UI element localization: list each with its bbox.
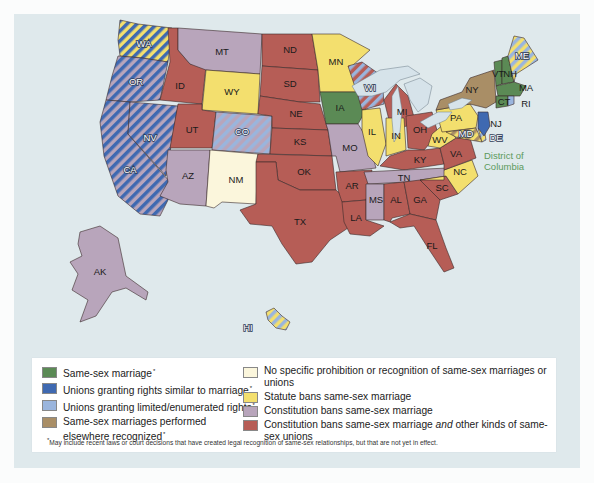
state-label-wa: WA <box>137 38 153 49</box>
state-fl <box>390 214 454 272</box>
state-label-oh: OH <box>413 124 427 135</box>
swatch-constitution-ban-plus <box>243 420 258 431</box>
swatch-unions-limited <box>42 400 57 411</box>
legend-item-unions-similar: Unions granting rights similar to marria… <box>42 382 255 397</box>
state-label-nc: NC <box>453 166 467 177</box>
map-panel: WAORCANVIDMTWYUTCOAZNMNDSDNEKSOKTXMNIAMO… <box>14 14 580 468</box>
state-label-mt: MT <box>215 46 229 57</box>
swatch-unions-similar <box>42 383 57 394</box>
state-label-tn: TN <box>398 172 411 183</box>
state-label-de: DE <box>489 132 502 143</box>
state-label-nm: NM <box>229 174 244 185</box>
state-label-co: CO <box>235 126 249 137</box>
state-label-fl: FL <box>426 240 437 251</box>
state-label-ks: KS <box>294 136 307 147</box>
legend-label: No specific prohibition or recognition o… <box>264 365 556 389</box>
state-label-mi: MI <box>397 106 408 117</box>
state-label-il: IL <box>368 126 376 137</box>
legend-label: Statute bans same-sex marriage <box>264 391 411 403</box>
state-label-nd: ND <box>283 44 297 55</box>
state-label-ia: IA <box>336 102 346 113</box>
state-label-ok: OK <box>297 166 311 177</box>
state-label-va: VA <box>450 148 463 159</box>
state-label-nj: NJ <box>490 118 502 129</box>
swatch-no-prohibition <box>243 367 258 378</box>
state-label-ma: MA <box>519 82 534 93</box>
state-label-tx: TX <box>294 216 307 227</box>
state-label-pa: PA <box>450 112 463 123</box>
state-label-mn: MN <box>329 56 344 67</box>
state-label-nh: NH <box>503 68 517 79</box>
state-label-in: IN <box>391 130 401 141</box>
state-label-ut: UT <box>186 124 199 135</box>
state-label-mo: MO <box>342 142 357 153</box>
state-label-ne: NE <box>289 108 302 119</box>
state-label-or: OR <box>129 76 143 87</box>
legend-column-right: No specific prohibition or recognition o… <box>243 365 556 444</box>
state-label-hi: HI <box>243 322 253 333</box>
state-label-ny: NY <box>465 84 479 95</box>
state-label-la: LA <box>350 212 362 223</box>
state-label-ri: RI <box>521 98 531 109</box>
legend-column-left: Same-sex marriage* Unions granting right… <box>42 365 255 445</box>
state-label-al: AL <box>390 194 402 205</box>
legend-label: Constitution bans same-sex marriage <box>264 405 433 417</box>
legend-item-same-sex-marriage: Same-sex marriage* <box>42 365 255 380</box>
swatch-statute-ban <box>243 392 258 403</box>
state-label-az: AZ <box>182 170 194 181</box>
state-label-ky: KY <box>414 154 427 165</box>
state-label-sd: SD <box>283 78 296 89</box>
legend-item-no-prohibition: No specific prohibition or recognition o… <box>243 365 556 389</box>
legend-item-constitution-ban: Constitution bans same-sex marriage <box>243 405 556 418</box>
state-label-sc: SC <box>435 182 448 193</box>
state-label-ak: AK <box>94 266 107 277</box>
dc-label-line2: Columbia <box>484 161 525 172</box>
state-label-ca: CA <box>123 164 137 175</box>
swatch-same-sex-marriage <box>42 367 57 378</box>
state-label-ms: MS <box>369 194 383 205</box>
swatch-recognized-elsewhere <box>42 417 57 428</box>
state-label-wy: WY <box>224 86 240 97</box>
state-label-md: MD <box>459 128 474 139</box>
state-label-wv: WV <box>432 134 448 145</box>
swatch-constitution-ban <box>243 406 258 417</box>
state-label-nv: NV <box>143 132 157 143</box>
legend-label: Unions granting rights similar to marria… <box>63 382 252 397</box>
legend-footnote: *May include recent laws or court decisi… <box>46 437 438 446</box>
state-label-me: ME <box>515 50 529 61</box>
legend: Same-sex marriage* Unions granting right… <box>32 358 556 452</box>
state-label-wi: WI <box>364 82 376 93</box>
state-hi <box>266 308 290 330</box>
dc-label-line1: District of <box>484 150 524 161</box>
legend-item-statute-ban: Statute bans same-sex marriage <box>243 391 556 404</box>
legend-label: Same-sex marriage* <box>63 365 155 380</box>
state-ak <box>70 226 148 322</box>
legend-label: Unions granting limited/enumerated right… <box>63 399 255 414</box>
state-label-ar: AR <box>345 180 358 191</box>
legend-item-unions-limited: Unions granting limited/enumerated right… <box>42 399 255 414</box>
state-label-ct: CT <box>498 96 511 107</box>
state-label-ga: GA <box>413 194 427 205</box>
state-label-id: ID <box>175 80 185 91</box>
